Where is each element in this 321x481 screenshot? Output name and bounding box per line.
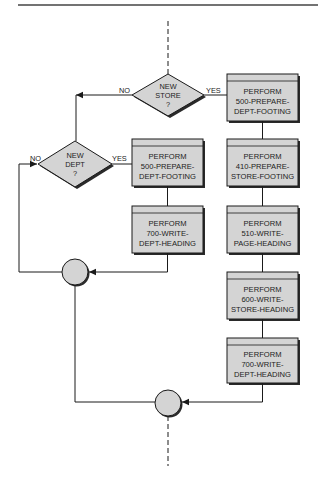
svg-text:700-WRITE-: 700-WRITE-	[241, 360, 284, 369]
svg-text:PERFORM: PERFORM	[149, 219, 187, 228]
svg-text:510-WRITE-: 510-WRITE-	[241, 229, 284, 238]
svg-text:PERFORM: PERFORM	[244, 152, 282, 161]
process-box: PERFORM 500-PREPARE- DEPT-FOOTING	[227, 74, 300, 123]
svg-text:PAGE-HEADING: PAGE-HEADING	[234, 239, 292, 248]
svg-text:DEPT-FOOTING: DEPT-FOOTING	[234, 107, 291, 116]
new-dept-yes-label: YES	[112, 154, 127, 163]
flowchart: NEW STORE ? NO YES NEW DEPT ? NO YES PER…	[0, 0, 321, 481]
decision-text-line: STORE	[155, 91, 180, 100]
svg-text:DEPT-HEADING: DEPT-HEADING	[234, 370, 291, 379]
connector-store-join	[155, 390, 183, 418]
svg-text:STORE-HEADING: STORE-HEADING	[231, 305, 294, 314]
new-store-no-label: NO	[119, 86, 130, 95]
process-box: PERFORM 700-WRITE- DEPT-HEADING	[227, 338, 300, 385]
decision-text-line: ?	[73, 169, 77, 178]
svg-text:PERFORM: PERFORM	[244, 219, 282, 228]
svg-text:DEPT-FOOTING: DEPT-FOOTING	[139, 172, 196, 181]
svg-text:410-PREPARE-: 410-PREPARE-	[236, 162, 290, 171]
svg-text:DEPT-HEADING: DEPT-HEADING	[139, 239, 196, 248]
decision-text-line: NEW	[159, 82, 176, 91]
decision-new-dept: NEW DEPT ?	[38, 141, 114, 189]
svg-text:500-PREPARE-: 500-PREPARE-	[141, 162, 195, 171]
connector-dept-join	[62, 259, 90, 287]
svg-text:500-PREPARE-: 500-PREPARE-	[236, 97, 290, 106]
decision-text-line: NEW	[66, 151, 83, 160]
decision-new-store: NEW STORE ?	[132, 74, 206, 118]
svg-text:600-WRITE-: 600-WRITE-	[241, 295, 284, 304]
process-box: PERFORM 500-PREPARE- DEPT-FOOTING	[132, 139, 205, 188]
process-box: PERFORM 410-PREPARE- STORE-FOOTING	[227, 139, 300, 188]
svg-text:PERFORM: PERFORM	[149, 152, 187, 161]
decision-text-line: ?	[166, 100, 170, 109]
process-box: PERFORM 700-WRITE- DEPT-HEADING	[132, 206, 205, 255]
process-box: PERFORM 600-WRITE- STORE-HEADING	[227, 272, 300, 321]
svg-text:PERFORM: PERFORM	[244, 350, 282, 359]
svg-text:PERFORM: PERFORM	[244, 87, 282, 96]
process-box: PERFORM 510-WRITE- PAGE-HEADING	[227, 206, 300, 255]
new-store-yes-label: YES	[206, 86, 221, 95]
svg-text:STORE-FOOTING: STORE-FOOTING	[231, 172, 294, 181]
decision-text-line: DEPT	[65, 160, 85, 169]
svg-text:PERFORM: PERFORM	[244, 285, 282, 294]
svg-text:700-WRITE-: 700-WRITE-	[146, 229, 189, 238]
new-dept-no-label: NO	[30, 154, 41, 163]
